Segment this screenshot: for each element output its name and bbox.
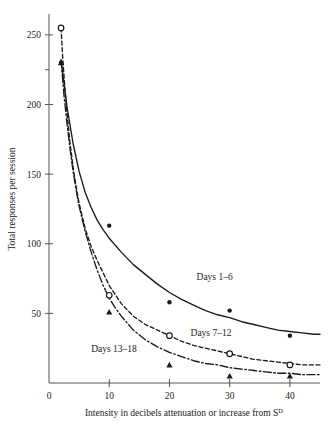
series-label: Days 7–12 — [191, 328, 232, 338]
data-point-filled-circle — [107, 223, 111, 227]
x-tick-label: 20 — [165, 391, 175, 401]
axes-group — [49, 14, 320, 383]
x-axis-title-main: Intensity in decibels attenuation or inc… — [85, 408, 278, 418]
series-label: Days 13–18 — [91, 344, 137, 354]
data-point-filled-triangle — [106, 309, 112, 315]
x-axis-title: Intensity in decibels attenuation or inc… — [85, 407, 283, 419]
data-point-open-circle — [227, 351, 233, 357]
x-tick-label: 10 — [104, 391, 114, 401]
data-point-open-circle — [167, 333, 173, 339]
y-tick-label: 100 — [27, 239, 42, 249]
data-point-filled-triangle — [227, 373, 233, 379]
chart-canvas: 50100150200250 010203040 Days 1–6Days 7–… — [0, 0, 335, 431]
x-axis-tick-labels: 010203040 — [47, 391, 295, 401]
y-tick-label: 150 — [27, 170, 42, 180]
chart-figure: 50100150200250 010203040 Days 1–6Days 7–… — [0, 0, 335, 431]
data-point-filled-circle — [227, 308, 231, 312]
y-axis-title: Total responses per session — [7, 147, 17, 250]
y-tick-label: 250 — [27, 30, 42, 40]
y-tick-label: 200 — [27, 100, 42, 110]
series-curves — [61, 28, 320, 375]
series-label: Days 1–6 — [197, 272, 233, 282]
data-point-open-circle — [58, 25, 64, 31]
series-curve — [61, 28, 320, 365]
x-tick-label: 40 — [285, 391, 295, 401]
data-point-filled-triangle — [166, 362, 172, 368]
series-curve — [61, 60, 320, 334]
y-tick-label: 50 — [32, 309, 42, 319]
data-point-open-circle — [106, 292, 112, 298]
data-point-open-circle — [287, 362, 293, 368]
data-point-filled-circle — [288, 333, 292, 337]
y-axis-tick-labels: 50100150200250 — [27, 30, 42, 318]
x-axis-title-superscript: D — [278, 407, 283, 414]
x-tick-label: 0 — [47, 391, 52, 401]
x-tick-label: 30 — [225, 391, 235, 401]
data-point-filled-circle — [167, 300, 171, 304]
